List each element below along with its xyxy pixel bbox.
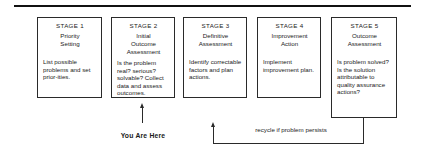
stage-1-box: STAGE 1 Priority Setting List possible p… bbox=[37, 17, 102, 98]
stage-4-description: Implement improvement plan. bbox=[263, 58, 316, 73]
stage-5-title-line: Assessment bbox=[337, 40, 392, 48]
stage-5-title-line: Outcome bbox=[337, 32, 392, 40]
stage-3-title-line: Definitive bbox=[189, 32, 242, 40]
stage-5-title: Outcome Assessment bbox=[337, 32, 392, 48]
stage-3-description: Identify correctable factors and plan ac… bbox=[189, 58, 242, 81]
recycle-arrowhead-icon bbox=[211, 122, 215, 127]
stage-2-title-line: Assessment bbox=[117, 48, 170, 56]
recycle-line-horizontal bbox=[213, 143, 364, 144]
you-are-here-arrow-shaft bbox=[142, 107, 143, 123]
stage-1-title-line: Priority bbox=[43, 32, 97, 40]
stage-2-box: STAGE 2 Initial Outcome Assessment Is th… bbox=[111, 17, 175, 98]
stage-1-description: List possible problems and set prior-iti… bbox=[43, 58, 97, 81]
stage-4-title: Improvement Action bbox=[263, 32, 316, 48]
stage-5-box: STAGE 5 Outcome Assessment Is problem so… bbox=[331, 17, 397, 118]
stage-4-title-line: Improvement bbox=[263, 32, 316, 40]
stage-5-label: STAGE 5 bbox=[337, 22, 392, 30]
you-are-here-label: You Are Here bbox=[113, 132, 173, 139]
stage-4-title-line: Action bbox=[263, 40, 316, 48]
stage-3-title-line: Assessment bbox=[189, 40, 242, 48]
stage-3-title: Definitive Assessment bbox=[189, 32, 242, 48]
stage-4-box: STAGE 4 Improvement Action Implement imp… bbox=[257, 17, 321, 98]
stage-1-label: STAGE 1 bbox=[43, 22, 97, 30]
stage-2-title-line: Initial bbox=[117, 32, 170, 40]
stage-3-label: STAGE 3 bbox=[189, 22, 242, 30]
recycle-line-stage3-up bbox=[213, 126, 214, 144]
stage-3-box: STAGE 3 Definitive Assessment Identify c… bbox=[183, 17, 247, 98]
recycle-label: recycle if problem persists bbox=[226, 126, 356, 133]
top-rule bbox=[14, 5, 411, 7]
stage-2-label: STAGE 2 bbox=[117, 22, 170, 30]
stage-5-description: Is problem solved? Is the solution attri… bbox=[337, 58, 392, 96]
stage-2-description: Is the problem real? serious? solvable? … bbox=[117, 59, 170, 97]
stage-1-title-line: Setting bbox=[43, 40, 97, 48]
stage-4-label: STAGE 4 bbox=[263, 22, 316, 30]
recycle-line-stage5-down bbox=[363, 118, 364, 144]
stage-1-title: Priority Setting bbox=[43, 32, 97, 48]
stage-2-title-line: Outcome bbox=[117, 40, 170, 48]
stage-2-title: Initial Outcome Assessment bbox=[117, 32, 170, 56]
